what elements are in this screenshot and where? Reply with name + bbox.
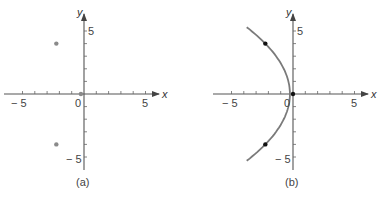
panel-a-x-tick-5: 5	[142, 97, 148, 109]
data-point	[79, 92, 83, 96]
panel-b	[213, 14, 368, 170]
data-point	[263, 41, 267, 45]
panel-a-x-axis-label: x	[161, 88, 168, 100]
data-point	[263, 142, 267, 146]
panel-b-x-axis-label: x	[370, 88, 377, 100]
panel-a-x-tick-neg5: − 5	[11, 97, 27, 109]
data-point	[291, 92, 295, 96]
panel-a-y-tick-5: 5	[88, 25, 94, 37]
panel-b-x-tick-neg5: − 5	[222, 97, 238, 109]
panel-b-y-axis-label: y	[285, 6, 293, 18]
panel-a-caption: (a)	[76, 176, 89, 188]
panel-b-x-tick-5: 5	[351, 97, 357, 109]
data-point	[54, 41, 58, 45]
panel-b-x-tick-0: 0	[284, 97, 290, 109]
data-point	[54, 142, 58, 146]
panel-b-y-tick-neg5: − 5	[275, 153, 291, 165]
panel-b-y-tick-5: 5	[297, 25, 303, 37]
panel-a-x-tick-0: 0	[75, 97, 81, 109]
panel-a	[4, 14, 159, 170]
panel-a-y-tick-neg5: − 5	[66, 153, 82, 165]
figure: y 5 − 5 − 5 0 5 x (a) y 5 − 5 − 5 0 5 x …	[0, 0, 390, 198]
panel-b-caption: (b)	[285, 176, 298, 188]
panel-a-y-axis-label: y	[76, 6, 84, 18]
